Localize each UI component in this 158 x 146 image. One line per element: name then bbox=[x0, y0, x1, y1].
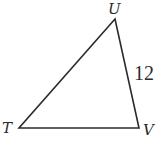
triangle-diagram: U T V 12 bbox=[0, 0, 158, 146]
triangle-tuv bbox=[19, 19, 139, 128]
vertex-label-t: T bbox=[2, 119, 13, 137]
vertex-label-u: U bbox=[108, 0, 122, 18]
vertex-label-v: V bbox=[143, 121, 156, 139]
side-label-uv: 12 bbox=[134, 62, 154, 84]
